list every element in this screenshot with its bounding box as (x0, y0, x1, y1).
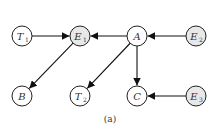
node-e1: E1 (70, 26, 90, 46)
node-subscript: 2 (199, 36, 203, 43)
node-t2: T2 (70, 86, 90, 106)
node-label: E (189, 91, 198, 102)
node-t1: T1 (12, 26, 32, 46)
node-subscript: 1 (25, 36, 29, 43)
edges-layer (29, 36, 186, 96)
node-e3: E3 (186, 86, 206, 106)
node-label: A (132, 31, 140, 42)
node-label: E (189, 31, 198, 42)
node-label: C (133, 91, 141, 102)
node-subscript: 1 (83, 36, 87, 43)
node-label: E (73, 31, 82, 42)
node-label: B (17, 91, 25, 102)
edge-a-to-t2 (87, 43, 130, 88)
diagram-caption: (a) (104, 114, 116, 124)
node-subscript: 2 (83, 96, 87, 103)
node-subscript: 3 (199, 96, 203, 103)
node-e2: E2 (186, 26, 206, 46)
node-b: B (12, 86, 32, 106)
edge-e1-to-b (29, 43, 73, 88)
node-c: C (127, 86, 147, 106)
bayesian-network-diagram: T1E1AE2BT2CE3 (a) (0, 0, 222, 134)
node-a: A (127, 26, 147, 46)
